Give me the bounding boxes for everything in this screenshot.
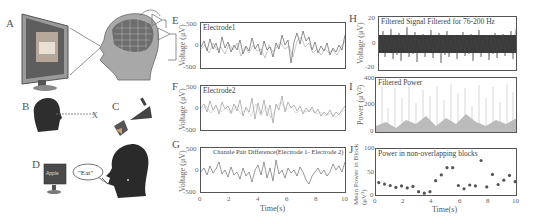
- panel-h-ytick: -20: [365, 63, 374, 71]
- scatter-point: [440, 173, 443, 176]
- gaze-head-icon: [34, 98, 94, 132]
- scatter-point: [400, 184, 403, 187]
- scatter-point: [468, 183, 471, 186]
- panel-j-xtick: 6: [458, 197, 462, 205]
- scatter-point: [377, 181, 380, 184]
- panel-h-ytick: 0: [372, 39, 376, 47]
- panel-f-ytick: 500: [186, 83, 197, 91]
- panel-h-ylabel: Voltage (μV): [356, 22, 365, 64]
- panel-j-xtick: 8: [486, 197, 490, 205]
- panel-j-xtick: 10: [512, 197, 519, 205]
- scatter-point: [497, 183, 500, 186]
- panel-f-ylabel: Voltage (μV): [178, 88, 187, 130]
- panel-j-title: Power in non-overlapping blocks: [378, 149, 478, 158]
- panel-e-ytick: -500: [183, 63, 196, 71]
- scatter-point: [457, 184, 460, 187]
- scatter-point: [508, 174, 511, 177]
- panel-i-plot: Filtered Power: [375, 77, 517, 133]
- illustration-a: X Apple "Eat": [0, 0, 180, 224]
- head-with-brain-icon: [100, 14, 159, 80]
- panel-j-xtick: 4: [429, 197, 433, 205]
- monitor-icon: [22, 14, 68, 91]
- panel-i-title: Filtered Power: [378, 78, 422, 87]
- panel-g-xtick: 2: [227, 195, 231, 203]
- panel-h-ytick: 20: [368, 14, 375, 22]
- scatter-point: [406, 186, 409, 189]
- panel-g-ytick: 500: [186, 145, 197, 153]
- panel-j-xtick: 2: [401, 197, 405, 205]
- panel-e-ytick: 0: [195, 41, 199, 49]
- panel-f-ytick: -500: [183, 126, 196, 134]
- scatter-point: [491, 173, 494, 176]
- panel-j-ytick: 100: [364, 144, 375, 152]
- panel-e-ylabel: Voltage (μV): [178, 24, 187, 66]
- panel-j-xtick: 0: [373, 197, 377, 205]
- panel-g-plot: Chanale Pair Difference(Electrode 1- Ele…: [200, 147, 346, 193]
- panel-i-ytick: 0: [370, 127, 374, 135]
- panel-label-g: G: [172, 138, 180, 150]
- speech-text: "Eat": [78, 169, 93, 177]
- panel-h-plot: Filtered Signal Filtered for 76-200 Hz: [378, 16, 517, 71]
- panel-g-title: Chanale Pair Difference(Electrode 1- Ele…: [213, 148, 343, 155]
- scatter-point: [485, 185, 488, 188]
- scatter-point: [428, 190, 431, 193]
- scatter-point: [434, 179, 437, 182]
- scatter-point: [417, 190, 420, 193]
- panel-h-title: Filtered Signal Filtered for 76-200 Hz: [381, 17, 495, 26]
- panel-j-plot: Power in non-overlapping blocks: [375, 148, 517, 196]
- panel-g-ytick: -500: [183, 188, 196, 196]
- monitor-word: Apple: [46, 170, 59, 176]
- small-monitor-icon: [44, 164, 66, 194]
- panel-f-plot: Electrode2: [200, 85, 346, 131]
- panel-e-plot: Electrode1: [200, 22, 346, 69]
- scatter-point: [389, 184, 392, 187]
- panel-j-xlabel: Time(s): [432, 205, 457, 214]
- panel-j-ytick: 50: [367, 168, 374, 176]
- motor-foot-icon: [114, 120, 128, 136]
- panel-g-ytick: 0: [195, 166, 199, 174]
- scatter-point: [474, 184, 477, 187]
- panel-g-ylabel: Voltage (μV): [178, 150, 187, 192]
- panel-g-xtick: 8: [314, 195, 318, 203]
- panel-i-ytick: 200: [364, 100, 375, 108]
- panel-f-title: Electrode2: [203, 86, 235, 95]
- scatter-point: [383, 182, 386, 185]
- scatter-point: [514, 180, 517, 183]
- motor-hand-icon: [130, 98, 152, 120]
- panel-g-xtick: 0: [198, 195, 202, 203]
- scatter-point: [394, 186, 397, 189]
- scatter-point: [479, 159, 482, 162]
- panel-f-ytick: 0: [195, 104, 199, 112]
- scatter-point: [502, 179, 505, 182]
- scatter-point: [445, 166, 448, 169]
- panel-label-i: I: [349, 80, 353, 92]
- scatter-point: [423, 192, 426, 195]
- scatter-point: [451, 166, 454, 169]
- panel-g-xtick: 10: [341, 195, 348, 203]
- speaking-head-icon: [106, 144, 148, 198]
- scatter-point: [462, 187, 465, 190]
- gaze-target-label: X: [92, 111, 98, 120]
- panel-i-ytick: 400: [364, 74, 375, 82]
- panel-g-xtick: 4: [256, 195, 260, 203]
- scatter-point: [411, 185, 414, 188]
- panel-e-title: Electrode1: [203, 23, 235, 32]
- panel-g-xlabel: Time(s): [260, 204, 285, 213]
- panel-g-xtick: 6: [285, 195, 289, 203]
- panel-e-ytick: 500: [186, 20, 197, 28]
